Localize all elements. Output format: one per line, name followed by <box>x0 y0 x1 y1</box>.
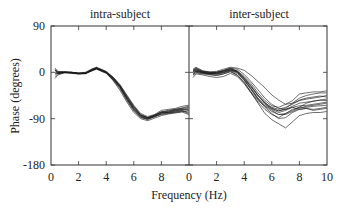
x-tick-label: 4 <box>241 170 247 184</box>
y-axis-label: Phase (degrees) <box>8 58 22 134</box>
y-tick-labels: 900-90-180 <box>23 19 45 172</box>
x-tick-label: 6 <box>269 170 275 184</box>
x-tick-label: 2 <box>76 170 82 184</box>
y-tick-label: 0 <box>39 65 45 79</box>
x-tick-label: 8 <box>158 170 164 184</box>
phase-chart: intra-subject inter-subject Phase (degre… <box>0 0 345 214</box>
y-tick-label: -90 <box>29 112 45 126</box>
x-tick-label: 0 <box>186 170 192 184</box>
inter-subject-title: inter-subject <box>229 7 289 21</box>
x-tick-label: 6 <box>131 170 137 184</box>
y-tick-label: -180 <box>23 158 45 172</box>
y-tick-label: 90 <box>33 19 45 33</box>
x-tick-label: 2 <box>214 170 220 184</box>
x-tick-labels: 024680246810 <box>48 170 333 184</box>
x-tick-label: 4 <box>103 170 109 184</box>
x-axis-label: Frequency (Hz) <box>151 188 227 202</box>
intra-subject-curves <box>55 67 188 121</box>
phase-curve <box>55 69 188 120</box>
x-tick-label: 10 <box>321 170 333 184</box>
intra-subject-title: intra-subject <box>90 7 151 21</box>
phase-curve <box>193 70 326 111</box>
x-tick-label: 8 <box>296 170 302 184</box>
inter-subject-curves <box>193 67 326 128</box>
x-tick-label: 0 <box>48 170 54 184</box>
